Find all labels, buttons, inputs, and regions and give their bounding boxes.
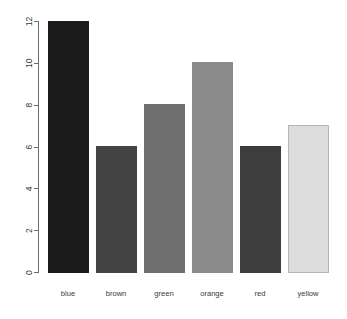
y-axis-tick-label: 4 [24, 186, 34, 191]
x-axis-label-brown: brown [106, 289, 127, 298]
y-axis-tick-label: 12 [24, 17, 34, 27]
x-axis-label-green: green [154, 289, 173, 298]
x-axis-label-red: red [255, 289, 266, 298]
y-axis-tick-label: 6 [24, 144, 34, 149]
x-axis-label-blue: blue [61, 289, 75, 298]
barplot-figure: 024681012bluebrowngreenorangeredyellow [0, 0, 347, 319]
x-axis-label-yellow: yellow [297, 289, 319, 298]
y-axis-tick-label: 8 [24, 103, 34, 108]
y-axis-tick-label: 2 [24, 228, 34, 233]
y-axis-tick-label: 0 [24, 270, 34, 275]
bar-blue[interactable] [48, 21, 88, 272]
bar-red[interactable] [240, 147, 280, 273]
bar-green[interactable] [144, 105, 184, 272]
bar-brown[interactable] [96, 147, 136, 273]
bar-orange[interactable] [192, 63, 232, 272]
x-axis-label-orange: orange [200, 289, 224, 298]
y-axis-tick-label: 10 [24, 58, 34, 68]
barplot-canvas: 024681012bluebrowngreenorangeredyellow [0, 0, 347, 319]
bar-yellow[interactable] [288, 126, 328, 272]
